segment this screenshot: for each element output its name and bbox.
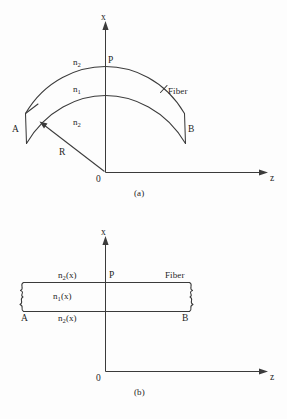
panel-a-index-cladding-upper-subscript: 2 xyxy=(78,61,81,68)
panel-a-end-b-label: B xyxy=(188,125,194,135)
panel-b-torn-edge-right xyxy=(190,283,194,312)
panel-a-fiber-label: Fiber xyxy=(168,87,188,96)
panel-a-end-face-b xyxy=(185,114,186,144)
panel-a-end-a-label: A xyxy=(12,125,19,135)
panel-a-caption: (a) xyxy=(134,189,144,198)
panel-b-z-axis-arrowhead xyxy=(259,368,268,374)
panel-a-point-p-label: P xyxy=(108,56,113,66)
panel-a-end-face-a-facet xyxy=(26,104,39,114)
panel-b-fiber-label: Fiber xyxy=(165,271,185,280)
panel-a-z-axis-arrowhead xyxy=(259,169,268,175)
panel-b-caption: (b) xyxy=(134,388,145,397)
panel-a-x-axis-label: x xyxy=(101,13,106,23)
panel-b-index-core: n1(x) xyxy=(53,292,72,302)
panel-b-index-cladding-upper-argument: (x) xyxy=(66,270,77,280)
panel-a-index-cladding-lower: n2 xyxy=(73,118,81,128)
panel-b-x-axis-label: x xyxy=(101,228,106,238)
panel-b-index-cladding-lower: n2(x) xyxy=(58,314,77,324)
panel-b-z-axis-label: z xyxy=(270,373,274,383)
figure-root: x z P 0 A B Fiber R n2 n1 n2 (a) x z P 0… xyxy=(0,0,287,419)
panel-a-radius-line xyxy=(44,125,105,172)
panel-b-end-b-label: B xyxy=(182,314,188,324)
panel-b-torn-edge-left xyxy=(20,283,24,312)
panel-a-end-face-a xyxy=(26,114,27,144)
panel-a-index-cladding-upper: n2 xyxy=(73,58,81,68)
panel-b-graphics xyxy=(20,236,268,375)
panel-b-end-a-label: A xyxy=(21,314,28,324)
panel-a-z-axis-label: z xyxy=(270,174,274,184)
figure-vector-layer xyxy=(0,0,287,419)
panel-b-origin-label: 0 xyxy=(96,374,101,384)
panel-a-radius-label: R xyxy=(59,148,65,158)
panel-a-index-core-subscript: 1 xyxy=(78,88,81,95)
panel-a-index-cladding-lower-subscript: 2 xyxy=(78,121,81,128)
panel-a-origin-label: 0 xyxy=(96,175,101,185)
panel-b-index-cladding-lower-argument: (x) xyxy=(66,313,77,323)
panel-b-point-p-label: P xyxy=(109,271,114,281)
panel-a-index-core: n1 xyxy=(73,85,81,95)
panel-b-index-core-argument: (x) xyxy=(61,291,72,301)
panel-b-index-cladding-upper: n2(x) xyxy=(58,271,77,281)
